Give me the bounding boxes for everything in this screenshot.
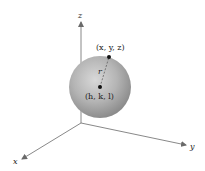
x-axis: [22, 123, 81, 159]
surface-point: [107, 55, 111, 59]
x-axis-label: x: [13, 157, 18, 166]
y-axis: [81, 123, 186, 145]
center-point-label: (h, k, l): [85, 92, 114, 101]
y-axis-label: y: [189, 142, 195, 151]
sphere-diagram: z y x (x, y, z) (h, k, l) r: [0, 0, 205, 171]
center-point: [98, 85, 102, 89]
surface-point-label: (x, y, z): [96, 43, 125, 52]
z-axis-label: z: [77, 11, 83, 20]
